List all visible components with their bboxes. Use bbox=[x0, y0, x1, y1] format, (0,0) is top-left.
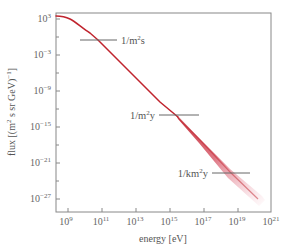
y-axis-title: flux [(m2 s sr GeV)−1] bbox=[5, 68, 18, 156]
svg-text:1017: 1017 bbox=[195, 215, 213, 227]
x-ticks bbox=[68, 208, 238, 212]
svg-text:10−27: 10−27 bbox=[30, 192, 51, 204]
x-axis-title: energy [eV] bbox=[139, 233, 187, 244]
svg-text:1015: 1015 bbox=[161, 215, 179, 227]
svg-text:103: 103 bbox=[38, 12, 52, 24]
x-tick-labels: 109 1011 1013 1015 1017 1019 1021 bbox=[59, 215, 280, 227]
svg-text:10−9: 10−9 bbox=[34, 84, 52, 96]
y-tick-labels: 103 10−3 10−9 10−15 10−21 10−27 bbox=[30, 12, 51, 204]
svg-text:10−21: 10−21 bbox=[30, 156, 51, 168]
svg-text:1/m2y: 1/m2y bbox=[130, 109, 156, 121]
svg-text:1013: 1013 bbox=[127, 215, 145, 227]
svg-text:1/m2s: 1/m2s bbox=[121, 34, 145, 46]
svg-text:1021: 1021 bbox=[263, 215, 281, 227]
svg-text:1/km2y: 1/km2y bbox=[178, 167, 209, 179]
svg-text:109: 109 bbox=[59, 215, 73, 227]
annotation-1-per-m2-y: 1/m2y bbox=[130, 109, 199, 121]
svg-text:10−3: 10−3 bbox=[34, 48, 52, 60]
svg-text:1019: 1019 bbox=[229, 215, 247, 227]
flux-curve bbox=[56, 16, 178, 117]
flux-chart: 103 10−3 10−9 10−15 10−21 10−27 109 1011… bbox=[0, 0, 295, 252]
annotation-1-per-m2-s: 1/m2s bbox=[80, 34, 145, 46]
svg-text:10−15: 10−15 bbox=[30, 120, 51, 132]
svg-text:1011: 1011 bbox=[93, 215, 110, 227]
